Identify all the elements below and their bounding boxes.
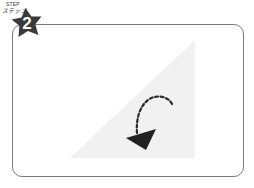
- step-number: 2: [17, 14, 37, 34]
- step-label-en: STEP: [6, 2, 20, 7]
